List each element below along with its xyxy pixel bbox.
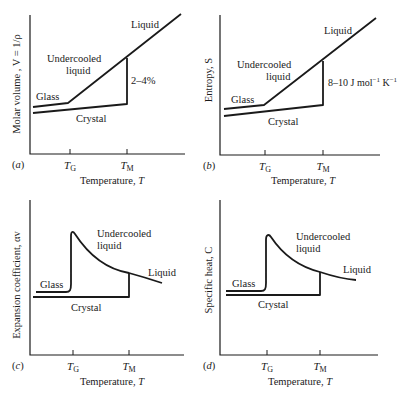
curve-label: Crystal: [76, 113, 106, 124]
curve-label: liquid: [66, 65, 91, 76]
figure-canvas: TGTMLiquidUndercooledliquidGlassCrystal2…: [0, 0, 402, 397]
glass-transition-figure: TGTMLiquidUndercooledliquidGlassCrystal2…: [0, 0, 402, 397]
curve-label: Undercooled: [97, 228, 152, 239]
curve-label: liquid: [97, 240, 122, 251]
curve-label: Undercooled: [237, 59, 292, 70]
panel-c: TGTMUndercooledliquidLiquidGlassCrystal(…: [11, 200, 184, 387]
x-axis-label: Temperature, T: [271, 175, 336, 186]
curve-label: Glass: [232, 278, 255, 289]
curve-label: Liquid: [148, 267, 177, 278]
curve-label: Liquid: [343, 264, 372, 275]
tg-label: TG: [261, 360, 273, 374]
curve-label: liquid: [296, 243, 321, 254]
curve-label: Glass: [36, 91, 59, 102]
panel-d: TGTMUndercooledliquidLiquidGlassCrystal(…: [203, 200, 378, 387]
curve-label: Undercooled: [47, 53, 102, 64]
y-axis-label: Entropy, S: [203, 58, 214, 102]
panel-tag: (c): [12, 360, 24, 372]
x-axis-label: Temperature, T: [80, 376, 145, 387]
curve-label: 2–4%: [131, 75, 156, 86]
curve-label: Glass: [40, 279, 63, 290]
curve-label: liquid: [266, 71, 291, 82]
axes: [30, 15, 185, 154]
x-axis-label: Temperature, T: [268, 376, 333, 387]
tm-label: TM: [122, 360, 135, 374]
y-axis-label: Expansion coefficient, αv: [11, 230, 22, 338]
tm-label: TM: [313, 360, 326, 374]
tg-label: TG: [64, 159, 76, 173]
curve-label: Liquid: [324, 25, 353, 36]
y-axis-label: Molar volume , V = 1/ρ: [11, 34, 22, 133]
curve-label: Crystal: [71, 302, 101, 313]
entropy-jump-label: 8–10 J mol−1 K−1: [328, 76, 398, 88]
curve-label: Crystal: [258, 299, 288, 310]
x-axis-label: Temperature, T: [80, 175, 145, 186]
curve-label: Crystal: [268, 116, 298, 127]
tm-label: TM: [120, 159, 133, 173]
panel-tag: (b): [203, 160, 216, 172]
panel-a: TGTMLiquidUndercooledliquidGlassCrystal2…: [11, 14, 185, 186]
y-axis-label: Specific heat, C: [203, 247, 214, 314]
panel-tag: (d): [203, 360, 216, 372]
curve-label: Undercooled: [296, 231, 351, 242]
panel-tag: (a): [12, 159, 25, 171]
tm-label: TM: [316, 160, 329, 174]
curve-label: Liquid: [131, 19, 160, 30]
tg-label: TG: [67, 360, 79, 374]
panel-b: TGTMLiquidUndercooledliquidGlassCrystal8…: [203, 15, 398, 186]
curve-label: Glass: [231, 94, 254, 105]
tg-label: TG: [259, 160, 271, 174]
